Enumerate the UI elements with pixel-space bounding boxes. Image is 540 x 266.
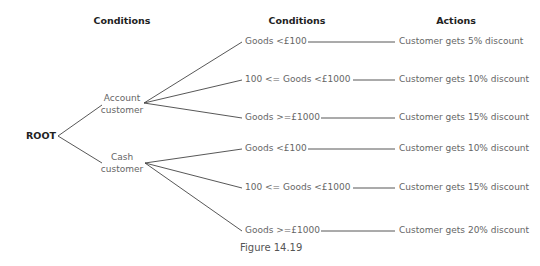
- condition-account-1: Goods <£100: [245, 36, 307, 47]
- branch-node-cash: Cash customer: [101, 151, 143, 175]
- branch-node-account: Account customer: [101, 92, 143, 116]
- action-account-1: Customer gets 5% discount: [399, 36, 523, 47]
- branch-label-line1: Account: [101, 92, 143, 104]
- action-cash-2: Customer gets 15% discount: [399, 182, 529, 193]
- edge-account-cond-3: [144, 103, 242, 118]
- action-cash-3: Customer gets 20% discount: [399, 225, 529, 236]
- edge-root-account: [58, 105, 102, 136]
- branch-label-line1: Cash: [101, 151, 143, 163]
- condition-account-3: Goods >=£1000: [245, 112, 320, 123]
- edge-account-cond-2: [144, 80, 242, 103]
- figure-caption: Figure 14.19: [240, 242, 302, 253]
- action-cash-1: Customer gets 10% discount: [399, 143, 529, 154]
- header-conditions-level-2: Conditions: [268, 15, 325, 26]
- edge-root-cash: [58, 136, 102, 163]
- branch-label-line2: customer: [101, 104, 143, 116]
- condition-cash-3: Goods >=£1000: [245, 225, 320, 236]
- branch-label-line2: customer: [101, 163, 143, 175]
- condition-cash-1: Goods <£100: [245, 143, 307, 154]
- edge-cash-cond-2: [145, 163, 242, 188]
- condition-cash-2: 100 <= Goods <£1000: [245, 182, 350, 193]
- root-node: ROOT: [26, 130, 56, 141]
- header-actions: Actions: [436, 15, 476, 26]
- action-account-2: Customer gets 10% discount: [399, 74, 529, 85]
- edge-cash-cond-1: [145, 149, 242, 163]
- header-conditions-level-1: Conditions: [93, 15, 150, 26]
- condition-account-2: 100 <= Goods <£1000: [245, 74, 350, 85]
- action-account-3: Customer gets 15% discount: [399, 112, 529, 123]
- edge-cash-cond-3: [145, 163, 242, 231]
- edge-account-cond-1: [144, 42, 242, 103]
